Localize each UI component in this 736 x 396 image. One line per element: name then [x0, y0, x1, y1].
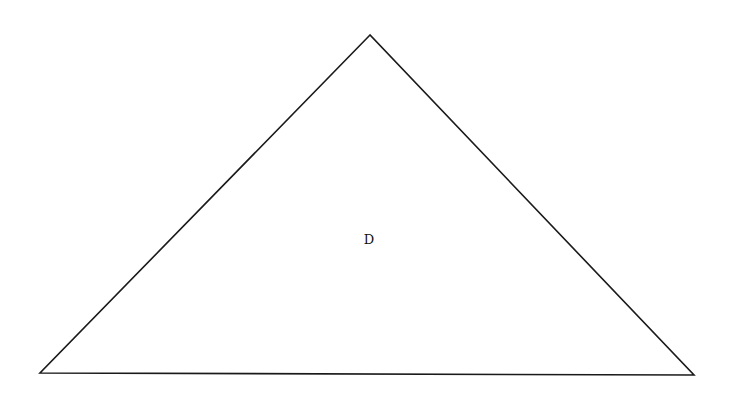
triangle-region	[40, 35, 694, 375]
region-label: D	[364, 232, 374, 247]
diagram-canvas: D	[0, 0, 736, 396]
